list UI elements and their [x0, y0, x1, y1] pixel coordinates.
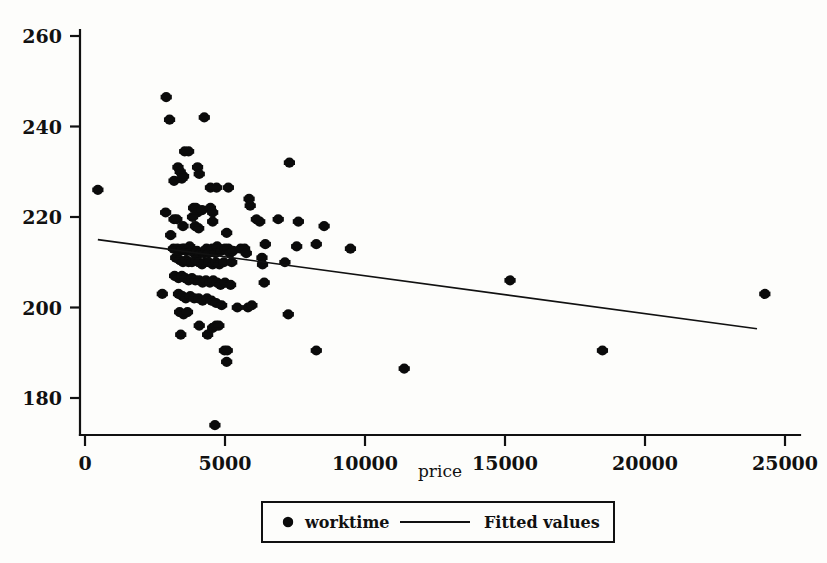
- legend-marker-worktime: [283, 517, 293, 527]
- data-point-glyph: [232, 305, 243, 310]
- data-point-glyph: [216, 303, 227, 308]
- data-point-glyph: [311, 242, 322, 247]
- data-point-glyph: [221, 360, 232, 365]
- data-point-glyph: [597, 348, 608, 353]
- worktime-marker-icon-bar: [284, 520, 293, 525]
- data-point-glyph: [222, 348, 233, 353]
- data-point-glyph: [183, 149, 194, 154]
- data-point-glyph: [207, 210, 218, 215]
- x-tick-label: 0: [78, 452, 91, 474]
- data-point-glyph: [192, 165, 203, 170]
- data-point-glyph: [211, 185, 222, 190]
- data-point-glyph: [226, 260, 237, 265]
- y-tick-label: 240: [22, 116, 62, 138]
- data-point-glyph: [319, 224, 330, 229]
- data-point-glyph: [161, 95, 172, 100]
- data-point-glyph: [245, 203, 256, 208]
- data-point-glyph: [177, 224, 188, 229]
- data-point-glyph: [256, 255, 267, 260]
- data-point-glyph: [202, 332, 213, 337]
- data-point-glyph: [178, 174, 189, 179]
- data-point-glyph: [194, 323, 205, 328]
- legend-label-fitted-values: Fitted values: [484, 513, 600, 532]
- data-point-glyph: [221, 231, 232, 236]
- data-point-glyph: [164, 117, 175, 122]
- x-tick-label: 5000: [199, 452, 252, 474]
- data-point-glyph: [194, 172, 205, 177]
- data-point-glyph: [157, 292, 168, 297]
- data-point-glyph: [207, 219, 218, 224]
- x-tick-label: 10000: [332, 452, 398, 474]
- data-point-glyph: [187, 215, 198, 220]
- y-tick-label: 200: [22, 297, 62, 319]
- data-point-glyph: [225, 283, 236, 288]
- data-point-glyph: [291, 244, 302, 249]
- data-point-glyph: [259, 280, 270, 285]
- data-point-glyph: [273, 217, 284, 222]
- data-point-glyph: [254, 219, 265, 224]
- data-point-glyph: [759, 292, 770, 297]
- chart-canvas: 180200220240260 050001000015000200002500…: [0, 0, 827, 563]
- x-tick-label: 15000: [472, 452, 538, 474]
- data-point-glyph: [283, 312, 294, 317]
- data-point-glyph: [160, 210, 171, 215]
- scatter-plot-figure: 180200220240260 050001000015000200002500…: [0, 0, 827, 563]
- data-point-glyph: [241, 251, 252, 256]
- data-point-glyph: [345, 246, 356, 251]
- y-tick-label: 220: [22, 206, 62, 228]
- y-tick-label: 260: [22, 25, 62, 47]
- x-tick-label: 25000: [752, 452, 818, 474]
- data-point-glyph: [165, 233, 176, 238]
- data-point-glyph: [182, 310, 193, 315]
- data-point-glyph: [92, 188, 103, 193]
- x-axis-title: price: [418, 461, 462, 481]
- data-point-glyph: [284, 160, 295, 165]
- data-point-glyph: [293, 219, 304, 224]
- data-point-glyph: [209, 423, 220, 428]
- y-tick-label: 180: [22, 387, 62, 409]
- data-point-glyph: [175, 332, 186, 337]
- data-point-glyph: [311, 348, 322, 353]
- data-point-glyph: [504, 278, 515, 283]
- data-point-glyph: [243, 197, 254, 202]
- data-point-glyph: [223, 185, 234, 190]
- data-point-glyph: [193, 226, 204, 231]
- data-point-glyph: [399, 366, 410, 371]
- data-point-glyph: [213, 323, 224, 328]
- data-point-glyph: [246, 303, 257, 308]
- data-point-glyph: [260, 242, 271, 247]
- data-point-glyph: [171, 217, 182, 222]
- x-tick-label: 20000: [612, 452, 678, 474]
- legend-label-worktime: worktime: [304, 513, 390, 532]
- data-point-glyph: [199, 115, 210, 120]
